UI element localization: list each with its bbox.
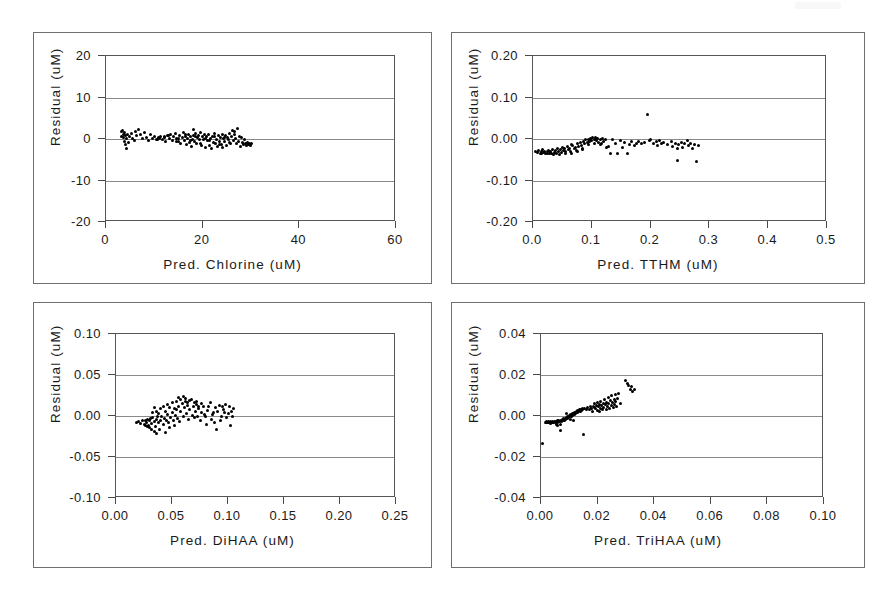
data-point <box>605 146 608 149</box>
data-point <box>171 401 174 404</box>
data-point <box>236 127 239 130</box>
data-point <box>676 147 679 150</box>
y-axis-tick-label: 0.00 <box>499 408 526 423</box>
data-point <box>697 144 700 147</box>
residual-plot-trihaa: -0.04-0.020.000.020.040.000.020.040.060.… <box>451 302 865 568</box>
data-point <box>612 406 615 409</box>
data-point <box>591 410 594 413</box>
y-axis-tick-label: -20 <box>71 214 91 229</box>
data-point <box>179 398 182 401</box>
panel-inner: -0.04-0.020.000.020.040.000.020.040.060.… <box>452 303 864 567</box>
data-point <box>139 133 142 136</box>
data-point <box>127 141 130 144</box>
data-point <box>190 145 193 148</box>
data-point <box>587 143 590 146</box>
data-point <box>147 139 150 142</box>
x-axis-tick-label: 0.0 <box>522 232 541 247</box>
panel-inner: -20-10010200204060Pred. Chlorine (uM)Res… <box>34 33 431 283</box>
data-point <box>205 423 208 426</box>
data-point <box>207 133 210 136</box>
data-point <box>168 426 171 429</box>
y-axis-tick <box>533 456 540 457</box>
data-point <box>209 401 212 404</box>
y-axis-tick <box>98 97 105 98</box>
data-point <box>162 405 165 408</box>
x-axis-title: Pred. TTHM (uM) <box>452 257 864 272</box>
data-point <box>565 412 568 415</box>
y-axis-tick-label: 0.00 <box>491 131 518 146</box>
data-point <box>628 143 631 146</box>
data-point <box>197 134 200 137</box>
data-point <box>167 421 170 424</box>
data-point <box>229 424 232 427</box>
plot-area <box>115 333 395 497</box>
y-axis-tick-label: 0.10 <box>74 326 101 341</box>
scan-artifact-page-number <box>795 2 841 9</box>
x-axis-tick <box>767 221 768 228</box>
data-point <box>219 419 222 422</box>
data-point <box>154 425 157 428</box>
data-point <box>558 153 561 156</box>
y-axis-tick <box>525 138 532 139</box>
data-point <box>230 135 233 138</box>
y-axis-tick <box>108 497 115 498</box>
data-point <box>611 138 614 141</box>
data-point <box>609 152 612 155</box>
data-point <box>219 136 222 139</box>
data-point <box>221 146 224 149</box>
data-point <box>243 138 246 141</box>
data-point <box>171 139 174 142</box>
y-axis-tick-label: 0.04 <box>499 326 526 341</box>
x-axis-tick <box>532 221 533 228</box>
y-axis-tick-label: 0.20 <box>491 48 518 63</box>
x-axis-tick <box>710 497 711 504</box>
x-axis-tick <box>597 497 598 504</box>
data-point <box>621 146 624 149</box>
x-axis-tick <box>395 497 396 504</box>
data-point <box>670 140 673 143</box>
data-point <box>171 411 174 414</box>
x-axis-tick-label: 0.08 <box>753 508 780 523</box>
y-axis-tick-label: -0.10 <box>69 490 101 505</box>
data-point <box>143 131 146 134</box>
x-axis-tick-label: 0.15 <box>270 508 297 523</box>
data-point <box>164 410 167 413</box>
data-point <box>541 442 544 445</box>
x-axis-tick-label: 0.4 <box>758 232 777 247</box>
data-point <box>130 132 133 135</box>
data-point <box>199 142 202 145</box>
data-point <box>614 142 617 145</box>
data-point <box>174 132 177 135</box>
data-point <box>662 141 665 144</box>
data-point <box>223 136 226 139</box>
data-point <box>184 133 187 136</box>
data-point <box>223 411 226 414</box>
data-point <box>178 420 181 423</box>
data-point <box>133 139 136 142</box>
data-point <box>139 422 142 425</box>
data-point <box>206 409 209 412</box>
data-point <box>185 412 188 415</box>
data-point <box>666 143 669 146</box>
data-point <box>614 393 617 396</box>
x-axis-tick-label: 20 <box>194 232 209 247</box>
data-point <box>192 128 195 131</box>
panel-inner: -0.10-0.050.000.050.100.000.050.100.150.… <box>34 303 431 567</box>
data-point <box>559 429 562 432</box>
data-point <box>173 424 176 427</box>
data-point <box>231 415 234 418</box>
data-point <box>623 141 626 144</box>
y-axis-tick-label: -0.10 <box>486 172 518 187</box>
plot-area <box>105 55 395 221</box>
data-point <box>617 392 620 395</box>
data-point <box>230 410 233 413</box>
y-axis-tick-label: 20 <box>76 48 91 63</box>
x-axis-tick-label: 0.25 <box>382 508 409 523</box>
y-axis-title: Residual (uM) <box>48 47 63 145</box>
data-point <box>619 139 622 142</box>
data-point <box>172 419 175 422</box>
x-axis-tick <box>105 221 106 228</box>
data-point <box>646 113 649 116</box>
data-point <box>689 142 692 145</box>
x-axis-tick <box>591 221 592 228</box>
